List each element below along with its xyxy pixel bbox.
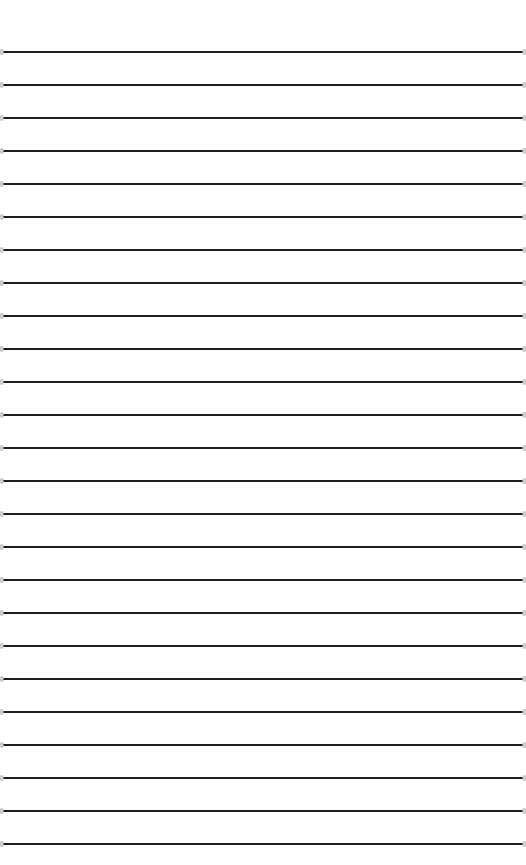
lined-paper-sheet [0, 0, 526, 865]
ruled-line [3, 480, 523, 482]
ruled-line [3, 348, 523, 350]
ruled-line [3, 216, 523, 218]
ruled-line [3, 546, 523, 548]
ruled-line [3, 249, 523, 251]
ruled-line [3, 744, 523, 746]
ruled-line [3, 84, 523, 86]
ruled-line [3, 150, 523, 152]
ruled-line [3, 678, 523, 680]
ruled-line [3, 282, 523, 284]
ruled-line [3, 315, 523, 317]
ruled-line [3, 381, 523, 383]
ruled-line [3, 612, 523, 614]
ruled-line [3, 447, 523, 449]
ruled-line [3, 51, 523, 53]
ruled-line [3, 843, 523, 845]
ruled-line [3, 711, 523, 713]
ruled-line [3, 810, 523, 812]
ruled-line [3, 645, 523, 647]
ruled-line [3, 513, 523, 515]
ruled-line [3, 777, 523, 779]
ruled-line [3, 414, 523, 416]
ruled-line [3, 183, 523, 185]
ruled-line [3, 117, 523, 119]
ruled-line [3, 579, 523, 581]
